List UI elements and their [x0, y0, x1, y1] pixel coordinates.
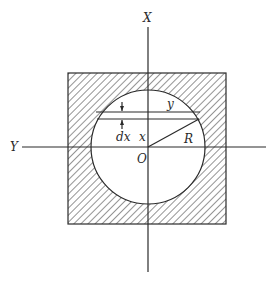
- strip-halfwidth-label: y: [166, 97, 174, 111]
- dx-label: dx: [116, 130, 131, 144]
- hatched-square-section: [68, 73, 226, 224]
- origin-label: O: [137, 152, 147, 166]
- x-axis-label: X: [142, 11, 152, 25]
- section-diagram: X Y O R y dx x: [0, 0, 280, 291]
- y-axis-label: Y: [10, 140, 19, 154]
- radius-label: R: [183, 132, 193, 146]
- x-distance-label: x: [139, 130, 146, 144]
